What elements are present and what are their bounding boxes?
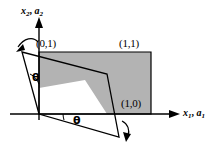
point-label-0-1: (0,1) bbox=[36, 38, 56, 49]
theta-bottom-arc bbox=[63, 114, 64, 120]
theta-label-left: θ bbox=[32, 72, 40, 83]
figure-container: x2, a2 x1, a1 (0,1) (1,1) (1,0) θ θ bbox=[0, 0, 215, 151]
horizontal-axis-arrowhead bbox=[169, 110, 180, 118]
horizontal-axis-label-a-sub: 1 bbox=[202, 112, 206, 120]
point-label-1-1: (1,1) bbox=[119, 38, 139, 49]
horizontal-axis-label: x1, a1 bbox=[183, 108, 205, 118]
rotation-arrow-top-head bbox=[16, 44, 25, 52]
vertical-axis-label-a-sub: 2 bbox=[40, 10, 44, 18]
vertical-axis-arrowhead bbox=[35, 17, 43, 28]
vertical-axis-label: x2, a2 bbox=[21, 6, 43, 16]
point-label-1-0: (1,0) bbox=[121, 98, 141, 109]
vertical-axis-label-x-sub: 2 bbox=[26, 10, 30, 18]
rotation-arrow-bottom-head bbox=[123, 132, 131, 142]
vertical-axis-label-a: a bbox=[35, 5, 40, 16]
horizontal-axis-label-a: a bbox=[197, 107, 202, 118]
rotation-arrow-top-curve bbox=[18, 39, 38, 47]
horizontal-axis-label-x-sub: 1 bbox=[188, 112, 192, 120]
theta-label-bottom: θ bbox=[73, 115, 81, 126]
